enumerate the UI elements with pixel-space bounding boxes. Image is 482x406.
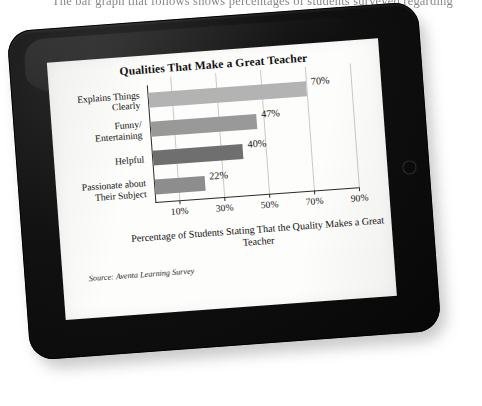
bar [150, 114, 257, 137]
category-label: Explains ThingsClearly [47, 90, 140, 118]
bar [155, 176, 206, 195]
bar-value-label: 40% [247, 137, 266, 149]
tablet-bezel: Qualities That Make a Great Teacher Expl… [6, 1, 441, 360]
x-tick-label: 70% [305, 195, 323, 207]
gridline [350, 63, 360, 187]
x-tick-mark [359, 187, 360, 191]
bar-value-label: 22% [209, 170, 228, 182]
camera-icon [211, 25, 215, 29]
tablet-device: Qualities That Make a Great Teacher Expl… [6, 1, 441, 360]
x-tick-mark [224, 197, 225, 201]
category-label: Passionate aboutTheir Subject [54, 178, 147, 206]
category-label: Funny/Entertaining [50, 120, 143, 148]
bar [148, 81, 307, 108]
x-tick-label: 90% [350, 191, 368, 203]
home-button[interactable] [402, 160, 417, 175]
x-tick-label: 10% [170, 205, 188, 217]
x-tick-label: 30% [215, 201, 233, 213]
tablet-screen[interactable]: Qualities That Make a Great Teacher Expl… [47, 38, 397, 320]
x-tick-mark [314, 190, 315, 194]
x-tick-mark [269, 194, 270, 198]
category-label: Helpful [52, 154, 145, 171]
x-tick-label: 50% [260, 198, 278, 210]
x-tick-mark [179, 200, 180, 204]
category-axis-labels: Explains ThingsClearlyFunny/Entertaining… [55, 84, 153, 230]
plot-area: 10%30%50%70%90%70%47%40%22% [147, 70, 359, 203]
bar-value-label: 47% [261, 107, 280, 119]
bar [153, 144, 244, 166]
source-note: Source: Aventa Learning Survey [88, 266, 194, 283]
bar-value-label: 70% [310, 74, 329, 86]
chart-plot-block: Explains ThingsClearlyFunny/Entertaining… [55, 67, 382, 230]
